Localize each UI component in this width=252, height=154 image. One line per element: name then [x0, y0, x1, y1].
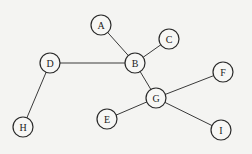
node-a: A: [91, 15, 111, 35]
graph-canvas: ABCDEFGHI: [0, 0, 252, 154]
node-f: F: [213, 62, 233, 82]
node-label: D: [46, 58, 53, 69]
node-h: H: [13, 117, 33, 137]
node-label: B: [132, 58, 139, 69]
edges-layer: [23, 25, 223, 130]
graph-diagram: ABCDEFGHI: [0, 0, 252, 154]
node-label: A: [97, 20, 105, 31]
node-e: E: [97, 109, 117, 129]
nodes-layer: ABCDEFGHI: [13, 15, 233, 140]
node-label: I: [219, 125, 222, 136]
node-label: G: [152, 93, 159, 104]
node-c: C: [159, 29, 179, 49]
node-label: H: [19, 122, 26, 133]
node-label: E: [104, 114, 110, 125]
node-d: D: [40, 53, 60, 73]
node-label: F: [220, 67, 226, 78]
edge-g-i: [156, 98, 221, 130]
node-b: B: [125, 53, 145, 73]
node-label: C: [166, 34, 173, 45]
node-g: G: [146, 88, 166, 108]
edge-g-f: [156, 72, 223, 98]
node-i: I: [211, 120, 231, 140]
